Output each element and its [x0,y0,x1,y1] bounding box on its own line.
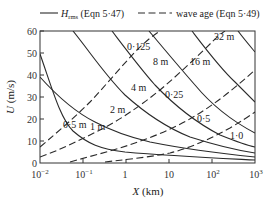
legend-dashed-label: wave age (Eqn 5·49) [176,8,260,20]
y-tick-label: 60 [27,26,37,37]
x-tick-label: 102 [206,168,220,180]
y-tick-label: 40 [27,70,37,81]
label-wave-age-0.5: 0·5 [197,113,210,124]
y-tick-label: 10 [27,136,37,147]
label-hrms-4m: 4 m [131,82,147,93]
y-tick-label: 20 [27,114,37,125]
y-tick-label: 50 [27,48,37,59]
label-wave-age-0.125: 0·125 [127,41,150,52]
label-wave-age-0.25: 0·25 [165,89,183,100]
x-axis: 10−2 10−1 1 10 102 103 X (km) [31,159,263,198]
x-tick-label: 10−1 [75,168,93,180]
x-tick-label: 1 [123,169,128,180]
label-hrms-16m: 16 m [190,56,211,67]
legend: Hrms (Eqn 5·47) wave age (Eqn 5·49) [40,8,260,20]
x-tick-label: 10−2 [31,168,49,180]
curve-hrms-32m [238,31,255,52]
chart: Hrms (Eqn 5·47) wave age (Eqn 5·49) 60 5… [0,0,273,204]
y-axis: 60 50 40 30 20 10 0 U (m/s) [4,26,44,169]
label-hrms-2m: 2 m [110,104,126,115]
label-hrms-1m: 1 m [90,121,106,132]
curve-hrms-1m [40,77,255,157]
y-tick-label: 0 [32,158,37,169]
y-tick-label: 30 [27,92,37,103]
x-axis-title: X (km) [132,185,164,198]
label-hrms-8m: 8 m [153,56,169,67]
label-wave-age-1.0: 1·0 [230,130,243,141]
legend-solid-label: Hrms (Eqn 5·47) [60,8,124,20]
y-axis-title: U (m/s) [4,80,17,114]
label-hrms-32m: 32 m [214,31,235,42]
x-tick-label: 10 [164,169,174,180]
curve-labels: 0·5 m 1 m 2 m 4 m 8 m 16 m 32 m 0·125 0·… [63,31,243,141]
x-tick-label: 103 [249,168,263,180]
label-hrms-0.5m: 0·5 m [63,119,87,130]
